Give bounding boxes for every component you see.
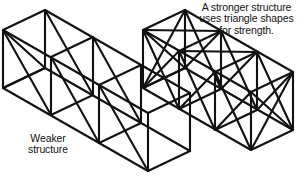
- weaker-structure-caption: Weaker structure: [16, 133, 80, 156]
- weaker-end-diagonal: [3, 30, 45, 88]
- stronger-structure-caption: A stronger structure uses triangle shape…: [196, 2, 297, 36]
- figure-canvas: Weaker structure A stronger structure us…: [0, 0, 299, 177]
- stronger-far-face-x-bay3: [257, 52, 293, 130]
